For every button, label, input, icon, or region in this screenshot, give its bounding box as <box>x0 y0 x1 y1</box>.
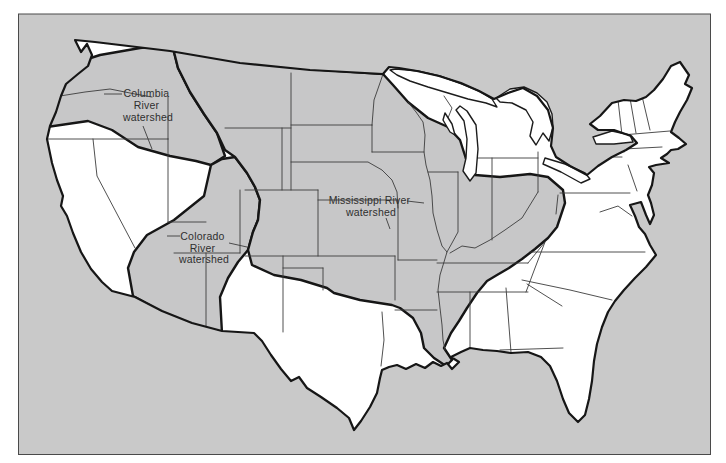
colorado-label-line1: Colorado <box>180 230 224 242</box>
mississippi-label-line2: watershed <box>345 206 396 218</box>
columbia-label-line1: Columbia <box>123 87 169 99</box>
mississippi-label-line1: Mississippi River <box>329 194 411 206</box>
columbia-label-line2: River <box>134 99 160 111</box>
watershed-map-figure: Columbia River watershed Colorado River … <box>0 0 726 463</box>
us-watershed-map: Columbia River watershed Colorado River … <box>0 0 726 463</box>
colorado-label-line3: watershed <box>178 253 229 265</box>
columbia-label-line3: watershed <box>122 111 173 123</box>
